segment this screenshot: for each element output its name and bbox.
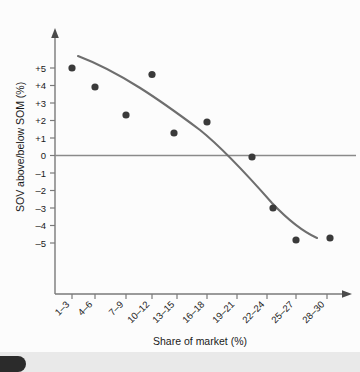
data-point (122, 111, 129, 118)
x-tick-label: 1–3 (52, 299, 71, 318)
figure-root: +5 +4 +3 +2 +1 0 –1 –2 –3 –4 –5 (0, 0, 360, 372)
x-tick-label: 13–15 (150, 299, 176, 325)
x-axis-title: Share of market (%) (153, 335, 247, 347)
y-tick-label: –1 (35, 168, 46, 179)
data-point (248, 153, 255, 160)
y-tick-label: +1 (35, 133, 46, 144)
y-axis-ticks (50, 68, 55, 243)
data-points (68, 64, 333, 243)
x-tick-label: 19–21 (210, 299, 236, 325)
y-tick-label: –4 (35, 220, 46, 231)
x-tick-label: 16–18 (180, 299, 206, 325)
y-tick-label: +3 (35, 98, 46, 109)
x-tick-label: 22–24 (240, 299, 266, 325)
y-tick-label: +4 (35, 80, 46, 91)
y-tick-label: –5 (35, 238, 46, 249)
x-axis (55, 290, 352, 298)
data-point (68, 64, 75, 71)
y-axis-title: SOV above/below SOM (%) (14, 82, 26, 212)
y-tick-label: +5 (35, 63, 46, 74)
data-point (91, 83, 98, 90)
data-point (326, 234, 333, 241)
trend-curve (78, 56, 317, 238)
x-tick-label: 7–9 (106, 299, 125, 318)
footer-band (0, 352, 360, 372)
data-point (269, 204, 276, 211)
x-axis-ticks (72, 294, 327, 299)
x-tick-label: 4–6 (75, 299, 94, 318)
x-axis-tick-labels: 1–3 4–6 7–9 10–12 13–15 16–18 19–21 22–2… (52, 299, 326, 325)
y-tick-label: 0 (41, 150, 46, 161)
x-tick-label: 25–27 (269, 299, 295, 325)
y-tick-label: –2 (35, 185, 46, 196)
y-tick-label: –3 (35, 203, 46, 214)
data-point (170, 129, 177, 136)
x-tick-label: 28–30 (300, 299, 326, 325)
x-tick-label: 10–12 (125, 299, 151, 325)
footer-tab-marker (0, 356, 26, 372)
scatter-chart: +5 +4 +3 +2 +1 0 –1 –2 –3 –4 –5 (0, 0, 360, 352)
data-point (148, 71, 155, 78)
y-tick-label: +2 (35, 115, 46, 126)
y-axis-tick-labels: +5 +4 +3 +2 +1 0 –1 –2 –3 –4 –5 (35, 63, 46, 249)
data-point (203, 118, 210, 125)
data-point (292, 236, 299, 243)
